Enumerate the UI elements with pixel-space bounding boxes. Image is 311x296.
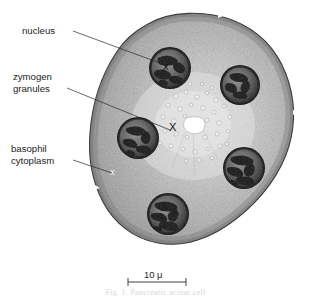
label-nucleus: nucleus bbox=[22, 25, 55, 36]
label-basophil-line2: cytoplasm bbox=[11, 155, 54, 166]
scale-bar-label: 10 μ bbox=[144, 269, 162, 280]
label-zymogen-line1: zymogen bbox=[13, 71, 52, 82]
label-group: nucleus zymogen granules basophil cytopl… bbox=[11, 25, 55, 166]
cytoplasm-x-marker: x bbox=[110, 167, 115, 177]
lumen-x-marker: X bbox=[169, 121, 177, 133]
nucleus-5 bbox=[147, 193, 189, 235]
figure-container: x bbox=[0, 0, 311, 296]
scale-bar: 10 μ bbox=[128, 269, 186, 286]
nucleus-2 bbox=[220, 65, 260, 105]
nucleus-4 bbox=[223, 147, 265, 189]
lumen bbox=[184, 117, 205, 134]
label-basophil-line1: basophil bbox=[11, 143, 47, 154]
figure-caption: Fig. 1. Pancreatic acinar cell bbox=[0, 289, 311, 296]
nucleus-1: x bbox=[149, 47, 191, 89]
cell-body bbox=[80, 5, 305, 255]
acinar-cell-illustration: x bbox=[0, 0, 311, 296]
label-zymogen-line2: granules bbox=[13, 83, 50, 94]
nucleus-x-marker: x bbox=[163, 60, 169, 72]
